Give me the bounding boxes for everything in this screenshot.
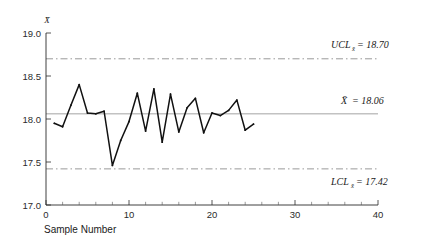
data-point bbox=[244, 129, 246, 131]
data-point bbox=[170, 93, 172, 95]
control-chart-figure: 19.0 18.5 18.0 17.5 17.0 X̄ 0 10 20 30 4… bbox=[0, 0, 421, 243]
data-point bbox=[53, 122, 55, 124]
data-point bbox=[95, 113, 97, 115]
data-point bbox=[136, 92, 138, 94]
data-point bbox=[145, 130, 147, 132]
data-point bbox=[186, 107, 188, 109]
data-point bbox=[128, 121, 130, 123]
lcl-annotation: LCL x̄ = 17.42 bbox=[330, 176, 388, 189]
lcl-label-prefix: LCL bbox=[330, 176, 349, 187]
y-tick-label-17-0: 17.0 bbox=[23, 200, 42, 211]
ucl-label-subscript: x̄ bbox=[351, 45, 355, 52]
chart-background bbox=[0, 0, 421, 243]
data-point bbox=[203, 132, 205, 134]
data-point bbox=[153, 88, 155, 90]
lcl-label-subscript: x̄ bbox=[350, 182, 354, 189]
center-label-prefix: X̄ bbox=[340, 95, 348, 106]
center-label-value: = 18.06 bbox=[352, 95, 384, 106]
y-tick-label-17-5: 17.5 bbox=[23, 157, 42, 168]
data-point bbox=[87, 112, 89, 114]
x-tick-label-10: 10 bbox=[124, 209, 135, 220]
x-tick-label-0: 0 bbox=[43, 209, 48, 220]
data-point bbox=[195, 97, 197, 99]
data-point bbox=[161, 141, 163, 143]
data-point bbox=[253, 123, 255, 125]
data-point bbox=[103, 110, 105, 112]
y-tick-label-19-0: 19.0 bbox=[23, 28, 42, 39]
lcl-label-value: = 17.42 bbox=[356, 176, 388, 187]
data-point bbox=[62, 126, 64, 128]
chart-canvas: 19.0 18.5 18.0 17.5 17.0 X̄ 0 10 20 30 4… bbox=[0, 0, 421, 243]
data-point bbox=[236, 99, 238, 101]
ucl-label-value: = 18.70 bbox=[357, 39, 389, 50]
data-point bbox=[211, 112, 213, 114]
x-axis-title: Sample Number bbox=[44, 224, 117, 235]
y-tick-label-18-5: 18.5 bbox=[23, 71, 42, 82]
center-annotation: X̄ = 18.06 bbox=[340, 95, 384, 106]
x-tick-label-30: 30 bbox=[290, 209, 301, 220]
data-point bbox=[78, 84, 80, 86]
data-point bbox=[70, 104, 72, 106]
x-tick-label-40: 40 bbox=[373, 209, 384, 220]
data-point bbox=[228, 110, 230, 112]
y-tick-label-18-0: 18.0 bbox=[23, 114, 42, 125]
y-axis-title: X̄ bbox=[43, 15, 50, 25]
data-point bbox=[219, 115, 221, 117]
data-point bbox=[120, 140, 122, 142]
ucl-annotation: UCL x̄ = 18.70 bbox=[331, 39, 389, 52]
data-point bbox=[178, 131, 180, 133]
ucl-label-prefix: UCL bbox=[331, 39, 351, 50]
x-tick-label-20: 20 bbox=[207, 209, 218, 220]
data-point bbox=[112, 165, 114, 167]
